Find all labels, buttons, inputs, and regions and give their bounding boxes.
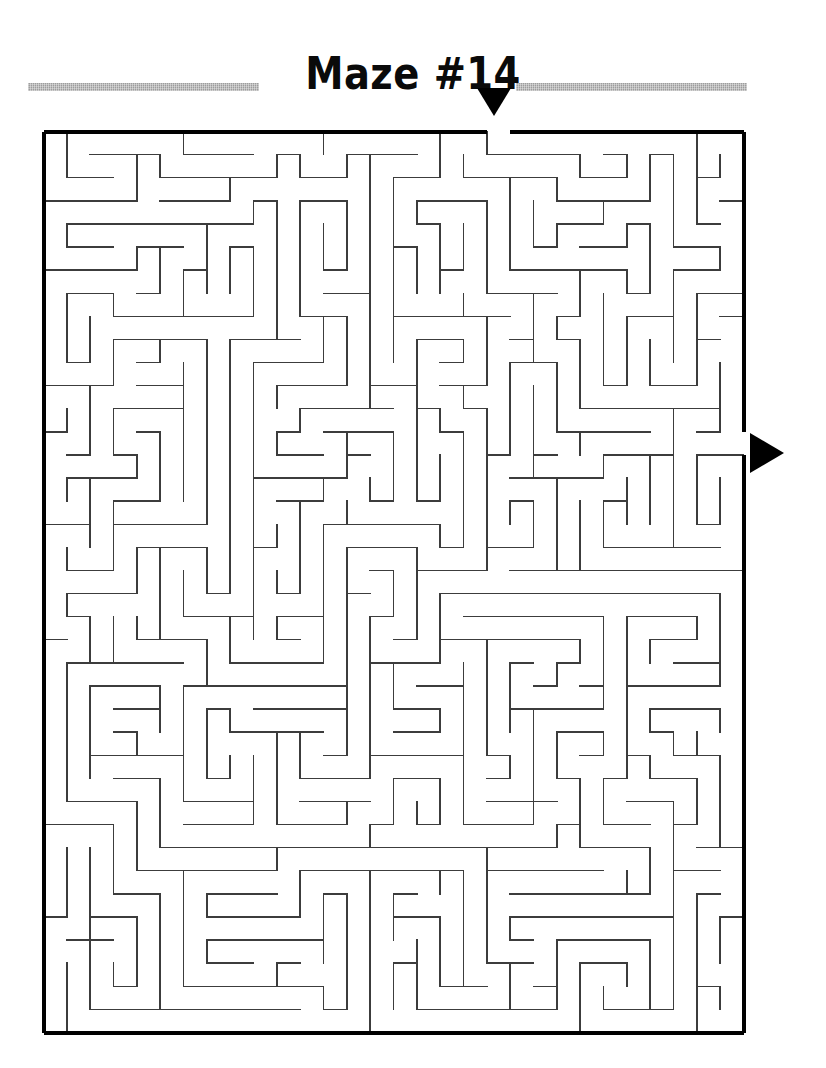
maze-page: Maze #14 [0,0,826,1068]
title-band: Maze #14 [0,28,826,94]
page-title: Maze #14 [21,48,806,100]
maze-container [41,129,746,1035]
triangle-down-icon [477,88,511,116]
maze-grid [41,129,746,1035]
maze-walls [43,131,743,1032]
triangle-right-icon [750,433,784,473]
